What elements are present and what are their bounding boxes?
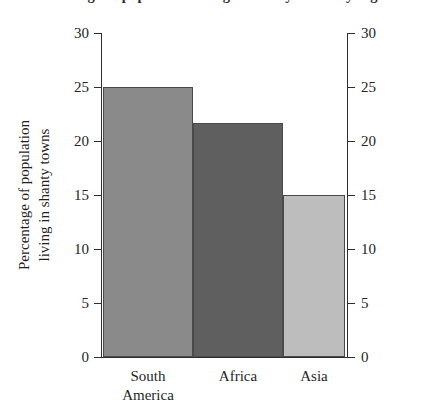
y-tick-left-20	[94, 141, 102, 142]
x-label-south-america: South America	[103, 367, 193, 405]
bar-asia	[283, 195, 345, 357]
y-tick-right-5	[347, 303, 355, 304]
y-tick-right-30	[347, 33, 355, 34]
chart-title-clipped: Percentage of population living in shant…	[0, 0, 429, 8]
y-tick-right-15	[347, 195, 355, 196]
y-tick-left-5	[94, 303, 102, 304]
y-tick-right-0	[347, 357, 355, 358]
y-label-right-20: 20	[361, 134, 376, 149]
y-tick-left-15	[94, 195, 102, 196]
y-label-right-30: 30	[361, 26, 376, 41]
plot-area: 30 25 20 15 10 5 0 30 25 20 15 10 5 0 So…	[102, 33, 347, 357]
x-label-asia: Asia	[283, 367, 345, 386]
y-label-left-0: 0	[0, 350, 89, 365]
y-label-left-5: 5	[0, 296, 89, 311]
y-label-left-20: 20	[0, 134, 89, 149]
y-label-left-30: 30	[0, 26, 89, 41]
x-label-africa: Africa	[193, 367, 283, 386]
bar-africa	[193, 123, 283, 357]
chart-title: Percentage of population living in shant…	[0, 0, 429, 4]
y-label-left-10: 10	[0, 242, 89, 257]
y-tick-left-10	[94, 249, 102, 250]
y-tick-right-10	[347, 249, 355, 250]
y-tick-left-25	[94, 87, 102, 88]
y-label-right-0: 0	[361, 350, 369, 365]
bar-chart-figure: Percentage of population living in shant…	[0, 0, 429, 420]
y-label-left-25: 25	[0, 80, 89, 95]
bar-south-america	[103, 87, 193, 357]
y-tick-left-0	[94, 357, 102, 358]
y-tick-right-25	[347, 87, 355, 88]
y-tick-left-30	[94, 33, 102, 34]
y-label-right-10: 10	[361, 242, 376, 257]
y-label-left-15: 15	[0, 188, 89, 203]
y-tick-right-20	[347, 141, 355, 142]
x-axis-line	[95, 357, 354, 358]
y-label-right-5: 5	[361, 296, 369, 311]
y-label-right-25: 25	[361, 80, 376, 95]
y-label-right-15: 15	[361, 188, 376, 203]
